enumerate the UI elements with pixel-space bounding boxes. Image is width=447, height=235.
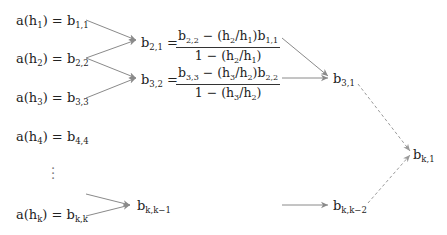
fraction-b32: b3,3 − (h3/h2)b2,2 1 − (h3/h2) [176,67,280,102]
node-a-h4: a(h4) = b4,4 [16,130,89,146]
lhs-text: a(h [16,90,37,105]
node-a-h3: a(h3) = b3,3 [16,91,89,107]
rhs-text: b [67,90,75,105]
equals: = [48,90,67,105]
fraction-numerator: b3,3 − (h3/h2)b2,2 [176,67,280,85]
b-subscript: 3,3 [75,97,89,107]
dashed-arrow-bkk2-to-bk1 [368,155,410,203]
arrow-upper-to-bkk1 [86,194,130,205]
b-subscript: 2,1 [149,42,163,52]
lhs-text: a(h [16,13,37,28]
rhs-text: b [67,207,75,222]
b-subscript: k,k−1 [145,205,171,215]
b-subscript: 2,2 [75,58,89,68]
equals: = [48,13,67,28]
vertical-ellipsis: ··· [51,166,55,181]
b-subscript: k,k [75,214,88,224]
node-bk-k-2: bk,k−2 [333,199,367,215]
node-a-h1: a(h1) = b1,1 [16,14,89,30]
node-a-h2: a(h2) = b2,2 [16,52,89,68]
arrow-b21-to-b31 [282,38,328,76]
b-subscript: k,k−2 [341,205,367,215]
rhs-text: b [67,51,75,66]
lhs-text: a(h [16,129,37,144]
b-subscript: 1,1 [75,20,89,30]
b-subscript: k,1 [421,154,434,164]
arrow-b22-to-b21 [86,40,136,58]
lhs-text: a(h [16,207,37,222]
lhs-text: a(h [16,51,37,66]
arrow-b11-to-b21 [86,20,136,40]
b-subscript: 3,1 [341,78,355,88]
rhs-text: b [67,13,75,28]
node-a-hk: a(hk) = bk,k [16,208,88,224]
fraction-b21: b2,2 − (h2/h1)b1,1 1 − (h2/h1) [176,30,280,65]
fraction-denominator: 1 − (h2/h1) [195,48,262,65]
dashed-arrow-b31-to-bk1 [358,84,410,151]
arrow-b22-to-b32 [86,58,136,78]
fraction-numerator: b2,2 − (h2/h1)b1,1 [176,30,280,48]
node-bk1-final: bk,1 [413,148,435,164]
equals: = [48,129,67,144]
rhs-text: b [67,129,75,144]
equals: = [47,207,66,222]
node-bk-k-1: bk,k−1 [137,199,171,215]
fraction-denominator: 1 − (h3/h2) [195,85,262,102]
equals: = [48,51,67,66]
node-b32: b3,2 = [141,73,178,89]
arrow-bkk-to-bkk1 [86,205,130,216]
arrow-b33-to-b32 [86,78,136,98]
node-b31: b3,1 [333,72,355,88]
b-subscript: 4,4 [75,136,89,146]
node-b21: b2,1 = [141,36,178,52]
b-subscript: 3,2 [149,79,163,89]
